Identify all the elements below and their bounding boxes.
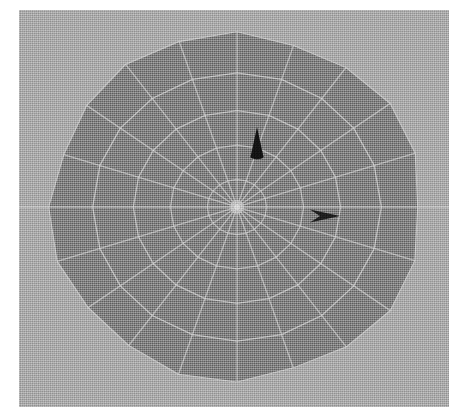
paper-margin-left xyxy=(0,0,19,407)
paper-margin-top xyxy=(0,0,449,10)
viewport-3d[interactable] xyxy=(19,10,449,407)
cone-marker-north-base xyxy=(251,155,264,159)
scene-svg[interactable] xyxy=(19,10,449,407)
viewport-canvas[interactable] xyxy=(19,10,449,407)
mesh-pole-center xyxy=(234,204,240,210)
screenshot-root xyxy=(0,0,449,407)
